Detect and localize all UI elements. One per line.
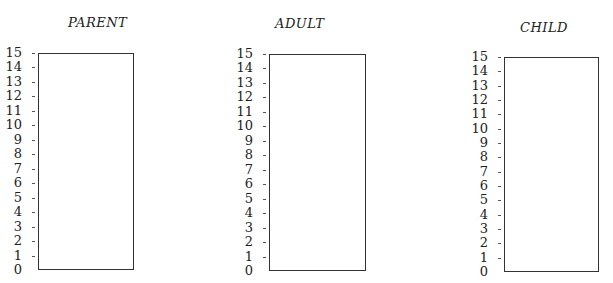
y-tick-label: 9	[231, 134, 253, 147]
y-tick-mark	[32, 96, 35, 97]
y-tick-mark	[263, 170, 266, 171]
y-tick-mark	[32, 111, 35, 112]
y-tick-mark	[32, 256, 35, 257]
y-tick-label: 1	[231, 250, 253, 263]
y-tick-mark	[263, 242, 266, 243]
y-tick-mark	[498, 215, 501, 216]
y-tick-label: 5	[231, 192, 253, 205]
y-tick-mark	[32, 241, 35, 242]
y-tick-label: 0	[0, 263, 22, 276]
y-tick-mark	[263, 257, 266, 258]
y-tick-mark	[263, 83, 266, 84]
y-tick-mark	[263, 68, 266, 69]
y-tick-label: 7	[0, 162, 22, 175]
y-tick-label: 14	[0, 60, 22, 73]
y-tick-label: 11	[231, 105, 253, 118]
chart-title: ADULT	[275, 16, 325, 31]
y-tick-mark	[498, 229, 501, 230]
y-tick-mark	[263, 184, 266, 185]
y-tick-label: 4	[466, 208, 488, 221]
y-tick-mark	[32, 169, 35, 170]
y-tick-mark	[263, 97, 266, 98]
y-tick-label: 13	[466, 79, 488, 92]
y-tick-label: 6	[231, 177, 253, 190]
y-tick-label: 4	[231, 206, 253, 219]
y-tick-label: 13	[0, 75, 22, 88]
y-tick-label: 10	[0, 118, 22, 131]
y-tick-label: 12	[0, 89, 22, 102]
y-tick-mark	[498, 86, 501, 87]
y-tick-label: 3	[0, 220, 22, 233]
y-tick-mark	[263, 112, 266, 113]
y-tick-label: 15	[0, 46, 22, 59]
y-tick-label: 10	[231, 119, 253, 132]
y-tick-label: 5	[466, 193, 488, 206]
y-tick-mark	[32, 82, 35, 83]
y-tick-label: 1	[466, 251, 488, 264]
y-tick-mark	[498, 186, 501, 187]
y-tick-mark	[263, 141, 266, 142]
y-tick-mark	[263, 228, 266, 229]
plot-frame	[38, 53, 134, 270]
y-tick-mark	[32, 198, 35, 199]
y-tick-mark	[263, 155, 266, 156]
y-tick-mark	[498, 172, 501, 173]
y-tick-label: 8	[0, 147, 22, 160]
plot-frame	[504, 57, 599, 272]
y-tick-label: 3	[231, 221, 253, 234]
y-tick-label: 7	[231, 163, 253, 176]
y-tick-mark	[498, 57, 501, 58]
y-tick-mark	[263, 199, 266, 200]
y-tick-label: 6	[0, 176, 22, 189]
y-tick-label: 10	[466, 122, 488, 135]
y-tick-label: 7	[466, 165, 488, 178]
y-tick-mark	[32, 227, 35, 228]
y-tick-mark	[32, 140, 35, 141]
y-tick-mark	[498, 129, 501, 130]
y-tick-mark	[32, 183, 35, 184]
y-tick-mark	[32, 212, 35, 213]
chart-title: PARENT	[68, 15, 127, 30]
y-tick-label: 11	[466, 107, 488, 120]
y-tick-mark	[498, 114, 501, 115]
y-tick-mark	[498, 258, 501, 259]
y-tick-label: 8	[466, 150, 488, 163]
y-tick-label: 6	[466, 179, 488, 192]
y-tick-mark	[498, 71, 501, 72]
y-tick-label: 8	[231, 148, 253, 161]
y-tick-mark	[498, 243, 501, 244]
chart-title: CHILD	[520, 20, 568, 35]
y-tick-label: 2	[466, 236, 488, 249]
y-tick-mark	[498, 200, 501, 201]
y-tick-label: 14	[231, 61, 253, 74]
y-tick-label: 9	[466, 136, 488, 149]
y-tick-label: 15	[466, 50, 488, 63]
y-tick-mark	[263, 126, 266, 127]
y-tick-mark	[498, 100, 501, 101]
y-tick-label: 12	[231, 90, 253, 103]
y-tick-mark	[498, 157, 501, 158]
y-tick-label: 2	[231, 235, 253, 248]
y-tick-label: 9	[0, 133, 22, 146]
y-tick-label: 4	[0, 205, 22, 218]
y-tick-mark	[32, 154, 35, 155]
y-tick-label: 11	[0, 104, 22, 117]
plot-frame	[269, 54, 366, 271]
y-tick-label: 0	[466, 265, 488, 278]
y-tick-label: 3	[466, 222, 488, 235]
y-tick-label: 5	[0, 191, 22, 204]
y-tick-label: 13	[231, 76, 253, 89]
y-tick-label: 15	[231, 47, 253, 60]
y-tick-mark	[263, 54, 266, 55]
y-tick-mark	[498, 143, 501, 144]
y-tick-mark	[32, 125, 35, 126]
y-tick-label: 14	[466, 64, 488, 77]
y-tick-label: 12	[466, 93, 488, 106]
y-tick-mark	[263, 213, 266, 214]
y-tick-label: 2	[0, 234, 22, 247]
y-tick-label: 0	[231, 264, 253, 277]
y-tick-label: 1	[0, 249, 22, 262]
y-tick-mark	[32, 53, 35, 54]
y-tick-mark	[32, 67, 35, 68]
